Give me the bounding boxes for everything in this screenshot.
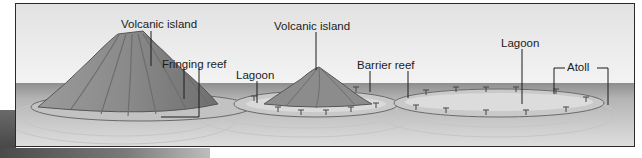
background-photo-strip: [0, 148, 210, 158]
label-volcanic-island-2: Volcanic island: [274, 20, 350, 32]
atoll-lagoon-shape: [405, 93, 593, 111]
label-fringing-reef: Fringing reef: [162, 58, 227, 70]
diagram-canvas: Volcanic island Fringing reef Volcanic i…: [16, 4, 634, 146]
label-lagoon-1: Lagoon: [236, 69, 274, 81]
reef-formation-diagram: Volcanic island Fringing reef Volcanic i…: [15, 3, 635, 147]
label-lagoon-2: Lagoon: [501, 37, 539, 49]
label-barrier-reef: Barrier reef: [357, 59, 415, 71]
label-atoll: Atoll: [567, 61, 589, 73]
label-volcanic-island-1: Volcanic island: [121, 18, 197, 30]
